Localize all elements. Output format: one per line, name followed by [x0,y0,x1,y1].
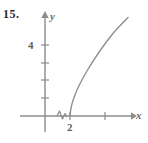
axis-break-squiggle-icon [57,111,67,119]
plot-area [0,0,148,143]
y-axis-arrowhead [41,11,48,18]
y-axis-label: y [50,11,55,22]
curve-path [70,18,128,117]
x-tick-label-2: 2 [67,122,73,133]
math-figure: 15. y x 4 2 [0,0,148,143]
x-axis-label: x [136,110,142,121]
y-tick-label-4: 4 [28,40,34,51]
